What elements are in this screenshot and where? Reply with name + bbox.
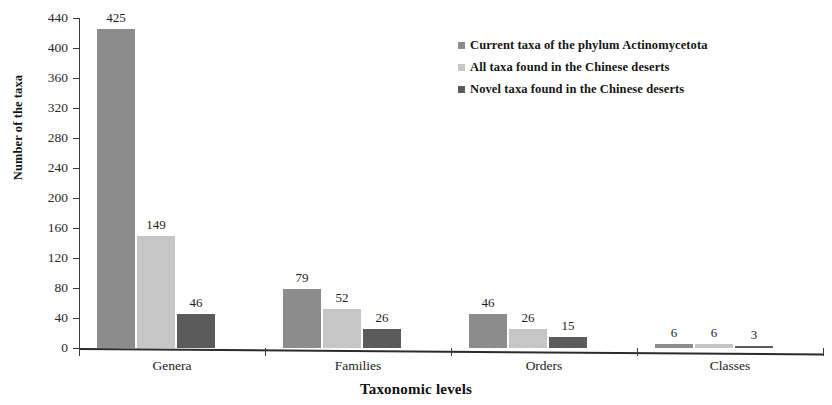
bar: 6 xyxy=(655,344,693,349)
bar-value-label: 26 xyxy=(522,310,535,326)
bar: 425 xyxy=(97,29,135,348)
x-axis-group-label: Genera xyxy=(79,358,265,374)
legend-item-label: Novel taxa found in the Chinese deserts xyxy=(470,82,684,97)
y-axis-tick-label: 80 xyxy=(55,279,69,296)
bar-value-label: 3 xyxy=(751,327,758,343)
x-axis-tick xyxy=(637,348,638,356)
bar-value-label: 149 xyxy=(146,217,166,233)
x-axis-group-label: Families xyxy=(265,358,451,374)
chart-legend: Current taxa of the phylum Actinomycetot… xyxy=(458,34,708,100)
bar: 26 xyxy=(363,329,401,349)
legend-item: Novel taxa found in the Chinese deserts xyxy=(458,78,708,100)
bar: 46 xyxy=(177,314,215,349)
bar: 15 xyxy=(549,337,587,348)
x-axis-tick xyxy=(451,348,452,356)
y-axis-tick-label: 240 xyxy=(48,159,68,176)
y-axis-tick-label: 120 xyxy=(48,249,68,266)
bar-value-label: 52 xyxy=(336,290,349,306)
x-axis-group-label: Classes xyxy=(637,358,823,374)
bar: 149 xyxy=(137,236,175,348)
bar: 3 xyxy=(735,346,773,348)
bar-chart: Number of the taxa 040801201602002402803… xyxy=(0,0,832,405)
y-axis-tick-label: 320 xyxy=(48,99,68,116)
bar-value-label: 6 xyxy=(671,325,678,341)
bar-value-label: 46 xyxy=(482,295,495,311)
bar: 6 xyxy=(695,344,733,349)
legend-swatch-icon xyxy=(458,42,465,49)
legend-swatch-icon xyxy=(458,64,465,71)
legend-item: All taxa found in the Chinese deserts xyxy=(458,56,708,78)
legend-item: Current taxa of the phylum Actinomycetot… xyxy=(458,34,708,56)
bar-value-label: 26 xyxy=(376,310,389,326)
bar: 46 xyxy=(469,314,507,349)
bar-value-label: 79 xyxy=(296,270,309,286)
y-axis-tick-label: 280 xyxy=(48,129,68,146)
y-axis-title: Number of the taxa xyxy=(11,48,26,208)
bar: 26 xyxy=(509,329,547,349)
bar-value-label: 6 xyxy=(711,325,718,341)
y-axis-tick-label: 200 xyxy=(48,189,68,206)
legend-swatch-icon xyxy=(458,86,465,93)
x-axis-tick xyxy=(823,348,824,356)
x-axis-group-label: Orders xyxy=(451,358,637,374)
bar-value-label: 46 xyxy=(190,295,203,311)
legend-item-label: All taxa found in the Chinese deserts xyxy=(470,60,670,75)
y-axis-tick-label: 360 xyxy=(48,69,68,86)
bar-value-label: 425 xyxy=(106,10,126,26)
x-axis-title: Taxonomic levels xyxy=(0,381,832,398)
bars-layer: 42514946795226462615663 xyxy=(79,18,823,348)
bar: 79 xyxy=(283,289,321,348)
y-axis-tick-label: 160 xyxy=(48,219,68,236)
bar: 52 xyxy=(323,309,361,348)
y-axis-tick-label: 440 xyxy=(48,9,68,26)
plot-area: 04080120160200240280320360400440 4251494… xyxy=(79,18,823,348)
x-axis-tick xyxy=(265,348,266,356)
legend-item-label: Current taxa of the phylum Actinomycetot… xyxy=(470,38,708,53)
bar-value-label: 15 xyxy=(562,318,575,334)
y-axis-tick-label: 40 xyxy=(55,309,69,326)
y-axis-tick-label: 400 xyxy=(48,39,68,56)
x-axis-tick xyxy=(79,348,80,356)
y-axis-tick-label: 0 xyxy=(61,339,68,356)
